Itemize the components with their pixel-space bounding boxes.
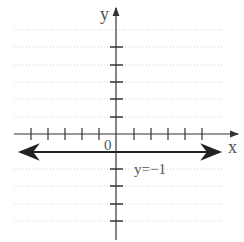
- x-axis-label: x: [228, 137, 237, 157]
- line-label: y=−1: [134, 161, 166, 177]
- coordinate-plane: y x 0 y=−1: [0, 0, 244, 242]
- y-axis-label: y: [100, 4, 109, 24]
- grid: [14, 30, 222, 221]
- origin-label: 0: [104, 137, 112, 153]
